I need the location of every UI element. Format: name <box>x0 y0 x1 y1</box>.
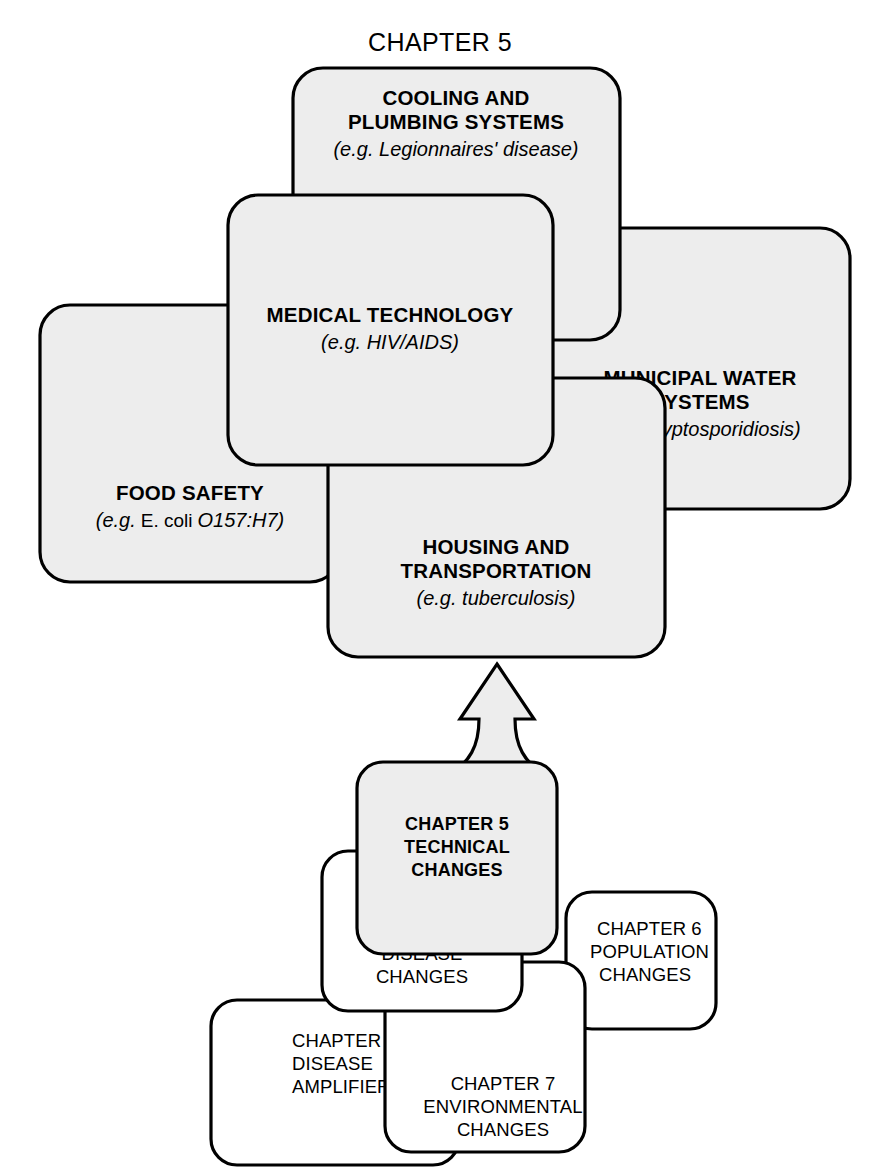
housing-transportation-heading-line1: HOUSING AND <box>422 535 569 558</box>
upper-cluster: FOOD SAFETY (e.g.E. coliO157:H7) MUNICIP… <box>40 68 850 657</box>
chapter-5-line1: CHAPTER 5 <box>405 814 509 834</box>
housing-transportation-heading-line2: TRANSPORTATION <box>400 559 591 582</box>
food-safety-example-part2: E. coli <box>141 510 193 531</box>
chapter-6-line2: POPULATION <box>590 941 709 962</box>
chapter-5-box[interactable] <box>357 762 557 954</box>
chapter-6-line1: CHAPTER 6 <box>597 918 702 939</box>
food-safety-heading: FOOD SAFETY <box>116 481 264 504</box>
chapter-5-line3: CHANGES <box>411 860 502 880</box>
chapter-7-line2: ENVIRONMENTAL <box>423 1096 582 1117</box>
chapter-5-line2: TECHNICAL <box>404 837 510 857</box>
chapter-6-line3: CHANGES <box>599 964 691 985</box>
chapter-7-line1: CHAPTER 7 <box>451 1073 556 1094</box>
medical-technology-box[interactable] <box>228 195 553 465</box>
chapter-8-line1: CHAPTER 8 <box>292 1030 397 1051</box>
chapter-7-line3: CHANGES <box>457 1119 549 1140</box>
chapter-8-line2: DISEASE <box>292 1053 373 1074</box>
page-title: CHAPTER 5 <box>368 28 512 56</box>
medical-technology-heading: MEDICAL TECHNOLOGY <box>267 303 514 326</box>
chapter5-technical-changes-diagram: CHAPTER 5 FOOD SAFETY (e.g.E. coliO157:H… <box>0 0 881 1169</box>
node-chapter-6[interactable]: CHAPTER 6 POPULATION CHANGES <box>566 892 716 1029</box>
lower-cluster: CHAPTER 8 DISEASE AMPLIFIERS CHAPTER 6 P… <box>211 762 716 1165</box>
chapter-4-line3: CHANGES <box>376 966 468 987</box>
diagram-root: CHAPTER 5 FOOD SAFETY (e.g.E. coliO157:H… <box>0 0 881 1169</box>
up-arrow-icon <box>448 664 546 776</box>
food-safety-example-part1: (e.g. <box>96 509 136 531</box>
food-safety-example-part3: O157:H7) <box>198 509 285 531</box>
node-chapter-5[interactable]: CHAPTER 5 TECHNICAL CHANGES <box>357 762 557 954</box>
up-arrow-connector <box>448 664 546 776</box>
cooling-plumbing-example: (e.g. Legionnaires' disease) <box>333 138 578 160</box>
housing-transportation-example: (e.g. tuberculosis) <box>417 587 576 609</box>
medical-technology-example: (e.g. HIV/AIDS) <box>321 331 459 353</box>
cooling-plumbing-heading-line1: COOLING AND <box>382 86 529 109</box>
node-medical-technology[interactable]: MEDICAL TECHNOLOGY (e.g. HIV/AIDS) <box>228 195 553 465</box>
food-safety-example: (e.g.E. coliO157:H7) <box>96 509 285 531</box>
cooling-plumbing-heading-line2: PLUMBING SYSTEMS <box>348 110 564 133</box>
